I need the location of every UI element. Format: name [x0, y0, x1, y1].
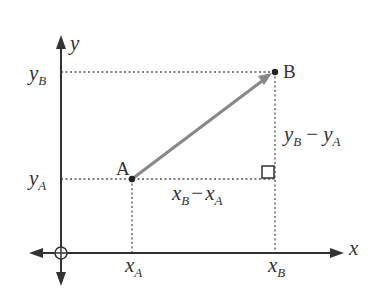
delta-x-label: xB−xA: [172, 183, 222, 204]
y-axis-up-arrow-icon: [56, 35, 66, 49]
point-B-label: B: [283, 62, 296, 81]
point-B-dot: [272, 69, 278, 75]
yA-tick-label: yA: [29, 168, 46, 189]
x-axis-right-arrow-icon: [330, 248, 344, 258]
xB-tick-label: xB: [268, 255, 285, 276]
vector-AB-line: [132, 78, 266, 179]
vector-diagram: y x B A yB yA xA xB xB−xA yB−yA: [0, 0, 379, 301]
point-A-label: A: [116, 159, 130, 178]
right-angle-marker: [262, 166, 274, 178]
delta-y-label: yB−yA: [284, 124, 340, 145]
y-axis-label: y: [70, 33, 79, 54]
y-axis-down-arrow-icon: [56, 272, 66, 286]
yB-tick-label: yB: [29, 63, 46, 84]
x-axis-label: x: [349, 238, 358, 259]
xA-tick-label: xA: [125, 255, 142, 276]
x-axis-left-arrow-icon: [29, 248, 43, 258]
guide-lines: [61, 72, 275, 253]
diagram-canvas: [0, 0, 379, 301]
